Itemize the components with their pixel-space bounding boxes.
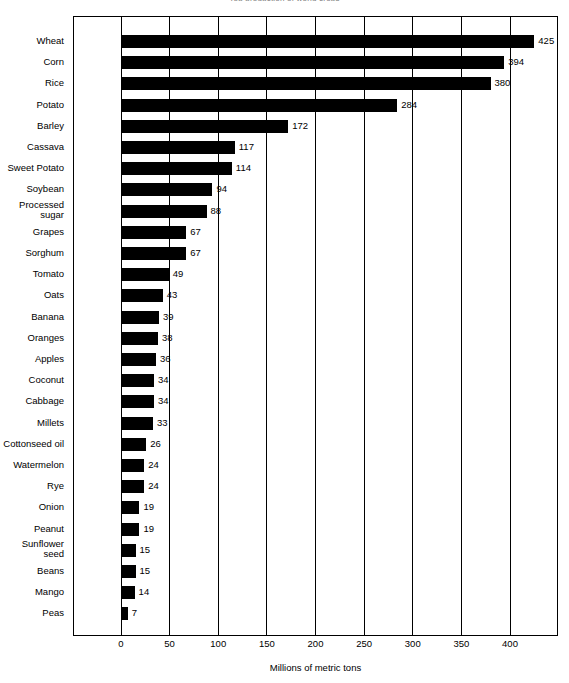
bar-value-label: 34 — [154, 373, 169, 386]
bar — [121, 162, 232, 175]
bar-value-label: 117 — [235, 140, 254, 153]
category-label: Sweet Potato — [0, 163, 64, 173]
bar-row: 43 — [73, 289, 558, 302]
x-tick-label: 50 — [164, 638, 175, 650]
category-label: Barley — [0, 121, 64, 131]
bar-value-label: 94 — [212, 182, 227, 195]
bar — [121, 99, 397, 112]
bar-row: 394 — [73, 56, 558, 69]
bar — [121, 501, 139, 514]
bar-value-label: 114 — [232, 161, 251, 174]
bars-container: 4253943802841721171149488676749433938363… — [73, 16, 558, 636]
bar-value-label: 14 — [135, 585, 150, 598]
bar-row: 67 — [73, 226, 558, 239]
bar-value-label: 380 — [491, 76, 511, 89]
bar-row: 24 — [73, 480, 558, 493]
x-axis-title: Millions of metric tons — [73, 662, 558, 673]
bar — [121, 544, 136, 557]
bar — [121, 183, 212, 196]
bar-value-label: 26 — [146, 437, 161, 450]
bar — [121, 523, 139, 536]
bar-value-label: 172 — [288, 119, 308, 132]
bar-value-label: 19 — [139, 522, 154, 535]
bar — [121, 77, 491, 90]
bar-row: 284 — [73, 99, 558, 112]
bar-value-label: 49 — [169, 267, 184, 280]
category-label: Oranges — [0, 333, 64, 343]
bar-row: 117 — [73, 141, 558, 154]
bar — [121, 141, 235, 154]
bar-value-label: 67 — [186, 225, 201, 238]
bar-row: 34 — [73, 374, 558, 387]
bar — [121, 247, 186, 260]
category-label: Cottonseed oil — [0, 439, 64, 449]
category-label: Watermelon — [0, 460, 64, 470]
bar — [121, 565, 136, 578]
bar-row: 94 — [73, 183, 558, 196]
category-label: Grapes — [0, 227, 64, 237]
bar-row: 34 — [73, 395, 558, 408]
x-tick-label: 350 — [453, 638, 469, 650]
category-label: Corn — [0, 57, 64, 67]
category-label: Wheat — [0, 36, 64, 46]
x-tick-label: 400 — [502, 638, 518, 650]
category-label: Rye — [0, 481, 64, 491]
bar — [121, 353, 156, 366]
category-labels: WheatCornRicePotatoBarleyCassavaSweet Po… — [0, 16, 70, 636]
bar — [121, 459, 144, 472]
bar-value-label: 15 — [136, 564, 151, 577]
bar-row: 19 — [73, 523, 558, 536]
bar — [121, 268, 169, 281]
bar-row: 172 — [73, 120, 558, 133]
category-label: Rice — [0, 78, 64, 88]
category-label: Apples — [0, 354, 64, 364]
bar — [121, 586, 135, 599]
bar-row: 19 — [73, 501, 558, 514]
category-label: Coconut — [0, 375, 64, 385]
bar-value-label: 19 — [139, 500, 154, 513]
category-label: Sorghum — [0, 248, 64, 258]
bar-chart: Top production of world crops 4253943802… — [0, 0, 569, 683]
bar — [121, 417, 153, 430]
x-tick-label: 100 — [210, 638, 226, 650]
bar-value-label: 7 — [128, 606, 137, 619]
bar — [121, 226, 186, 239]
bar-row: 33 — [73, 417, 558, 430]
x-tick-label: 150 — [259, 638, 275, 650]
x-axis-ticks: 050100150200250300350400 — [73, 636, 558, 656]
bar-value-label: 24 — [144, 479, 159, 492]
bar-row: 67 — [73, 247, 558, 260]
bar-row: 380 — [73, 77, 558, 90]
bar-value-label: 425 — [534, 34, 554, 47]
bar — [121, 311, 159, 324]
bar — [121, 35, 534, 48]
bar — [121, 205, 207, 218]
bar — [121, 332, 158, 345]
bar-row: 39 — [73, 311, 558, 324]
bar-row: 49 — [73, 268, 558, 281]
bar-row: 14 — [73, 586, 558, 599]
bar-row: 425 — [73, 35, 558, 48]
bar-value-label: 394 — [504, 55, 524, 68]
category-label: Onion — [0, 502, 64, 512]
bar-row: 88 — [73, 205, 558, 218]
bar — [121, 607, 128, 620]
bar-value-label: 39 — [159, 310, 174, 323]
category-label: Sunflower seed — [0, 539, 64, 559]
x-tick-label: 250 — [356, 638, 372, 650]
bar-row: 24 — [73, 459, 558, 472]
category-label: Peanut — [0, 524, 64, 534]
bar-value-label: 43 — [163, 288, 178, 301]
bar-row: 7 — [73, 607, 558, 620]
bar — [121, 438, 146, 451]
category-label: Cassava — [0, 142, 64, 152]
category-label: Banana — [0, 312, 64, 322]
category-label: Peas — [0, 608, 64, 618]
bar-row: 38 — [73, 332, 558, 345]
bar — [121, 120, 288, 133]
bar-row: 15 — [73, 565, 558, 578]
x-tick-label: 0 — [118, 638, 123, 650]
bar-row: 114 — [73, 162, 558, 175]
category-label: Potato — [0, 100, 64, 110]
category-label: Tomato — [0, 269, 64, 279]
